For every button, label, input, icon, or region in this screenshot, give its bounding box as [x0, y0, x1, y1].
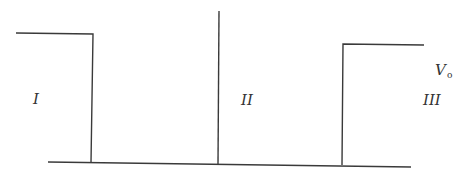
- region-2-label: II: [240, 91, 254, 109]
- potential-subscript: o: [447, 70, 452, 80]
- middle-divider: [218, 11, 219, 164]
- potential-diagram: I II III V o: [0, 0, 462, 175]
- left-step-wall: [16, 33, 93, 163]
- region-3-label: III: [422, 91, 442, 109]
- right-step-wall: [342, 44, 424, 165]
- region-1-label: I: [32, 90, 40, 108]
- baseline: [48, 162, 411, 167]
